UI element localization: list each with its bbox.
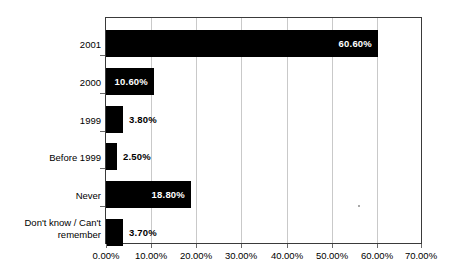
bar-value-1999: 3.80% — [129, 114, 157, 125]
y-axis-label-text: Before 1999 — [49, 152, 101, 164]
bar-value-2001: 60.60% — [339, 38, 378, 49]
x-axis-tick — [332, 244, 333, 248]
x-axis-tick — [421, 244, 422, 248]
bar-dont-know — [106, 219, 123, 246]
y-axis-label-dont-know: Don't know / Can't remember — [0, 213, 101, 241]
bar-value-before-1999: 2.50% — [123, 151, 151, 162]
y-axis-label-2000: 2000 — [0, 69, 101, 97]
plot-area: 60.60% 10.60% 3.80% 2.50% 18.80% — [105, 17, 422, 244]
y-axis-label-1999: 1999 — [0, 107, 101, 135]
bar-value-never: 18.80% — [152, 189, 191, 200]
x-axis-tick — [151, 244, 152, 248]
y-axis-label-text-line2: remember — [0, 229, 101, 241]
bar-value-dont-know: 3.70% — [129, 227, 157, 238]
bar-row-2000: 10.60% — [106, 67, 421, 95]
bar-2000: 10.60% — [106, 68, 154, 95]
bar-row-dont-know: 3.70% — [106, 218, 421, 246]
bar-series: 60.60% 10.60% 3.80% 2.50% 18.80% — [106, 18, 421, 243]
bar-row-2001: 60.60% — [106, 29, 421, 57]
bar-row-never: 18.80% — [106, 180, 421, 208]
bar-row-1999: 3.80% — [106, 105, 421, 133]
y-axis-label-text: 2000 — [80, 77, 101, 89]
x-axis-tick — [287, 244, 288, 248]
bar-1999 — [106, 106, 123, 133]
y-axis-label-text: Never — [76, 190, 101, 202]
x-axis-tick — [241, 244, 242, 248]
y-axis-label-2001: 2001 — [0, 31, 101, 59]
x-axis-tick — [106, 244, 107, 248]
bar-value-2000: 10.60% — [115, 76, 154, 87]
x-axis-label-70: 70.00% — [394, 250, 448, 261]
x-axis-tick — [377, 244, 378, 248]
y-axis-label-text: 2001 — [80, 39, 101, 51]
bar-chart: 2001 2000 1999 Before 1999 Never Don't k… — [0, 0, 456, 280]
x-axis-tick — [196, 244, 197, 248]
y-axis-label-never: Never — [0, 182, 101, 210]
bar-row-before-1999: 2.50% — [106, 142, 421, 170]
y-axis-label-before-1999: Before 1999 — [0, 144, 101, 172]
y-axis-category-labels: 2001 2000 1999 Before 1999 Never Don't k… — [0, 17, 101, 244]
y-axis-label-text: 1999 — [80, 115, 101, 127]
y-axis-label-text-line1: Don't know / Can't — [0, 217, 101, 229]
bar-2001: 60.60% — [106, 30, 378, 57]
bar-before-1999 — [106, 143, 117, 170]
bar-never: 18.80% — [106, 181, 191, 208]
